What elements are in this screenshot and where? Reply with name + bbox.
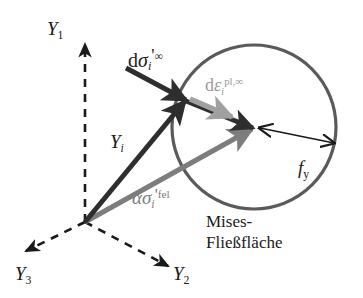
depsilon-superscript: pl,∞ — [224, 75, 243, 87]
asigma-symbol-overbar: σ — [142, 188, 151, 207]
asigma-superscript: fel — [158, 188, 170, 200]
axis-label-y1-sub: 1 — [58, 29, 64, 42]
axis-label-y2: Y2 — [173, 264, 189, 287]
fy-subscript: y — [303, 168, 309, 181]
axis-label-y2-sub: 2 — [184, 274, 190, 287]
vector-fy-radius — [260, 128, 334, 143]
yield-surface-caption-line1: Mises- — [206, 212, 252, 231]
yield-surface-caption: Mises- Fließfläche — [206, 212, 336, 253]
axis-label-y2-base: Y — [173, 263, 184, 284]
vector-label-dsigma: dσi'∞ — [128, 47, 163, 73]
axis-y2 — [85, 222, 168, 266]
yield-surface-caption-line2: Fließfläche — [206, 233, 282, 252]
axis-label-y3: Y3 — [15, 264, 31, 287]
axis-label-y1: Y1 — [47, 19, 63, 42]
axis-label-y3-sub: 3 — [26, 274, 32, 287]
axis-label-y3-base: Y — [15, 263, 26, 284]
yi-subscript: i — [121, 142, 124, 155]
vector-label-alpha-sigma: ασi'fel — [132, 186, 170, 211]
yi-symbol: Y — [110, 131, 121, 152]
dsigma-symbol: σ — [138, 49, 148, 71]
dsigma-d: d — [128, 49, 138, 71]
depsilon-d: d — [205, 75, 214, 95]
vector-label-yi: Yi — [110, 132, 124, 155]
asigma-alpha: α — [132, 187, 142, 208]
vector-dsigma-continuation — [186, 101, 253, 128]
vector-label-fy: fy — [298, 158, 309, 181]
vector-depsilon-pl-inf — [190, 99, 232, 117]
axis-label-y1-base: Y — [47, 18, 58, 39]
vector-label-depsilon: dεipl,∞ — [205, 76, 243, 97]
figure-root: Y1 Y2 Y3 dσi'∞ dεipl,∞ Yi ασi'fel fy Mis… — [0, 0, 363, 298]
dsigma-superscript: ∞ — [155, 49, 164, 63]
mises-yield-surface-circle — [172, 45, 336, 209]
axis-y3 — [26, 222, 85, 251]
